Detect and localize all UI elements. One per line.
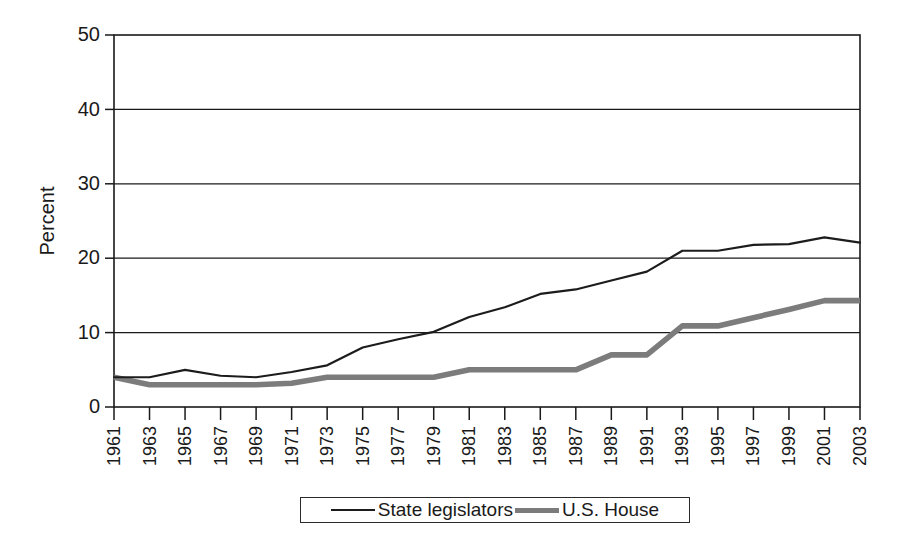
chart-figure: 01020304050 1961196319651967196919711973… xyxy=(0,0,905,552)
x-tick-label: 1985 xyxy=(530,426,550,466)
x-tick-label: 1991 xyxy=(637,426,657,466)
x-tick-label: 1967 xyxy=(211,426,231,466)
x-tick-label: 1965 xyxy=(175,426,195,466)
x-tick-label: 1987 xyxy=(566,426,586,466)
legend-entry-state-legislators: State legislators xyxy=(331,499,513,521)
x-tick-label: 1961 xyxy=(104,426,124,466)
chart-canvas: 01020304050 1961196319651967196919711973… xyxy=(0,0,905,552)
plot-area-border xyxy=(114,35,860,407)
y-tick-label: 20 xyxy=(78,246,100,268)
x-tick-label: 1981 xyxy=(459,426,479,466)
x-tick-label: 1979 xyxy=(424,426,444,466)
x-tick-label: 2003 xyxy=(850,426,870,466)
x-tick-label: 2001 xyxy=(814,426,834,466)
y-axis-tick-labels-group: 01020304050 xyxy=(78,23,100,417)
x-tick-label: 1975 xyxy=(353,426,373,466)
x-tick-label: 1993 xyxy=(672,426,692,466)
x-tick-label: 1969 xyxy=(246,426,266,466)
legend-swatch-us-house-icon xyxy=(515,508,559,513)
legend-entry-us-house: U.S. House xyxy=(513,499,659,521)
y-tick-label: 50 xyxy=(78,23,100,45)
y-tick-label: 0 xyxy=(89,395,100,417)
x-tick-marks-group xyxy=(114,407,860,420)
gridlines-group xyxy=(114,109,860,332)
x-tick-label: 1983 xyxy=(495,426,515,466)
y-tick-marks-group xyxy=(105,35,114,407)
x-axis-tick-labels-group: 1961196319651967196919711973197519771979… xyxy=(104,426,870,466)
x-tick-label: 1997 xyxy=(743,426,763,466)
y-axis-title: Percent xyxy=(36,186,58,255)
x-tick-label: 1973 xyxy=(317,426,337,466)
chart-legend: State legislators U.S. House xyxy=(300,497,690,523)
y-tick-label: 10 xyxy=(78,321,100,343)
legend-swatch-state-legislators-icon xyxy=(331,509,375,511)
x-tick-label: 1963 xyxy=(140,426,160,466)
y-tick-label: 40 xyxy=(78,98,100,120)
x-tick-label: 1977 xyxy=(388,426,408,466)
x-tick-label: 1999 xyxy=(779,426,799,466)
x-tick-label: 1995 xyxy=(708,426,728,466)
y-tick-label: 30 xyxy=(78,172,100,194)
x-tick-label: 1989 xyxy=(601,426,621,466)
legend-label-us-house: U.S. House xyxy=(562,499,659,521)
legend-label-state-legislators: State legislators xyxy=(378,499,513,521)
x-tick-label: 1971 xyxy=(282,426,302,466)
